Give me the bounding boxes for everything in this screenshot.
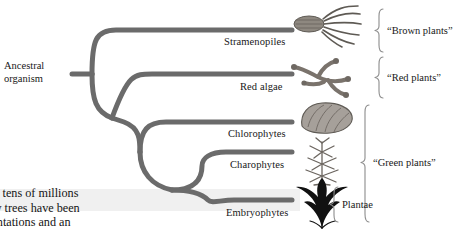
page-body-line-2: rly trees have been	[0, 201, 80, 216]
group-label-red-plants: “Red plants”	[387, 72, 441, 83]
group-label-brown-plants: “Brown plants”	[387, 25, 453, 36]
brace-brown-plants	[375, 9, 383, 52]
group-label-plantae: Plantae	[342, 199, 373, 210]
brace-plantae	[330, 187, 338, 222]
brace-red-plants	[375, 57, 383, 98]
group-label-green-plants: “Green plants”	[373, 157, 436, 168]
page-body-line-1: he tens of millions	[0, 186, 80, 201]
page-body-line-3: lantations and an	[0, 215, 80, 230]
phylogenetic-tree-figure: Ancestral organism Stramenopiles Red alg…	[0, 0, 472, 233]
page-body-text: he tens of millions rly trees have been …	[0, 186, 80, 230]
